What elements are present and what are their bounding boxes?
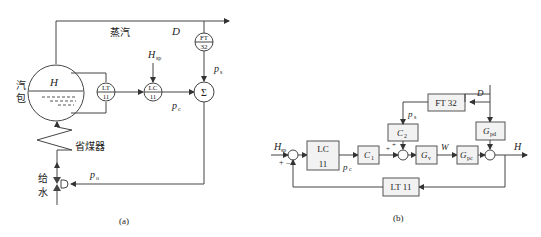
- svg-text:11: 11: [103, 93, 110, 101]
- drum-label: 包: [16, 92, 26, 104]
- svg-text:+: +: [392, 141, 396, 149]
- svg-text:水: 水: [38, 187, 48, 198]
- ps-label: p: [213, 63, 219, 74]
- output-label: H: [513, 141, 522, 152]
- svg-text:s: s: [220, 69, 223, 75]
- svg-text:G: G: [421, 150, 428, 160]
- svg-text:o: o: [96, 175, 99, 181]
- svg-text:LT 11: LT 11: [391, 182, 412, 192]
- svg-text:G: G: [483, 126, 490, 136]
- summing-junction-2: [398, 150, 408, 160]
- figure-b: H sp + − LC 11 p c C 1 + + C 2 FT 32 p s…: [271, 85, 527, 223]
- disturbance-label: D: [476, 88, 484, 98]
- figure-a: 蒸汽 D H 汽 包 LT 11 LC 11 H sp p c FT: [16, 21, 229, 226]
- level-label: H: [49, 76, 59, 88]
- summing-junction-3: [485, 150, 495, 160]
- drum-label: 汽: [16, 79, 26, 91]
- w-label: W: [441, 142, 450, 152]
- setpoint-label: H: [147, 49, 156, 60]
- svg-text:LT: LT: [102, 84, 111, 92]
- economizer-label: 省煤器: [75, 140, 105, 152]
- caption-b: (b): [393, 213, 404, 223]
- svg-text:11: 11: [150, 93, 157, 101]
- svg-text:FT 32: FT 32: [435, 98, 457, 108]
- caption-a: (a): [119, 216, 129, 226]
- svg-text:−: −: [286, 159, 291, 168]
- svg-text:v: v: [428, 155, 431, 161]
- svg-text:sp: sp: [156, 55, 161, 61]
- svg-text:11: 11: [319, 159, 328, 169]
- steam-flow-label: D: [171, 25, 180, 37]
- steam-label: 蒸汽: [110, 26, 130, 38]
- svg-text:pc: pc: [467, 155, 473, 161]
- svg-text:LC: LC: [317, 144, 329, 154]
- svg-text:sp: sp: [281, 147, 286, 153]
- diagram-canvas: 蒸汽 D H 汽 包 LT 11 LC 11 H sp p c FT: [0, 0, 541, 237]
- svg-text:c: c: [178, 106, 181, 112]
- svg-text:C: C: [364, 150, 371, 160]
- svg-text:LC: LC: [149, 84, 158, 92]
- svg-text:G: G: [460, 150, 467, 160]
- svg-text:c: c: [349, 166, 352, 172]
- svg-text:2: 2: [404, 133, 407, 139]
- ps-label-b: p: [407, 109, 413, 119]
- svg-text:s: s: [414, 114, 417, 120]
- pc-label-b: p: [342, 162, 348, 172]
- pc-label: p: [171, 100, 177, 111]
- feedwater-label: 给: [38, 172, 48, 184]
- svg-text:Σ: Σ: [201, 87, 207, 98]
- svg-text:pd: pd: [490, 131, 496, 137]
- economizer-coil: [37, 123, 72, 163]
- feed-valve-icon: [53, 177, 61, 191]
- svg-text:FT: FT: [200, 34, 209, 42]
- po-label: p: [89, 169, 95, 180]
- svg-text:C: C: [397, 128, 404, 138]
- svg-text:+: +: [279, 158, 284, 167]
- svg-text:1: 1: [371, 155, 374, 161]
- svg-text:32: 32: [201, 43, 209, 51]
- svg-text:+: +: [386, 145, 390, 153]
